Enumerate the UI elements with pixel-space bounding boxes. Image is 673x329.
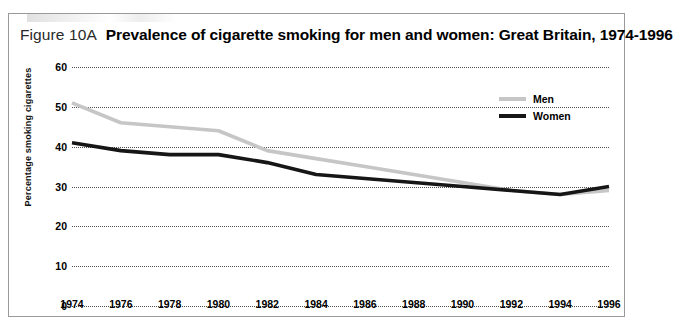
legend-label-men: Men <box>533 94 554 105</box>
legend-item-women[interactable]: Women <box>499 111 571 122</box>
series-line-women <box>72 143 609 195</box>
legend-item-men[interactable]: Men <box>499 94 571 105</box>
chart-legend: MenWomen <box>499 94 571 121</box>
chart-plot-area: Percentage smoking cigarettes 0102030405… <box>9 14 626 318</box>
legend-swatch-icon-men <box>499 97 526 101</box>
figure-card: Figure 10A Prevalence of cigarette smoki… <box>8 13 625 317</box>
chart-series-svg <box>9 14 626 318</box>
legend-label-women: Women <box>533 111 571 122</box>
legend-swatch-icon-women <box>499 114 526 118</box>
